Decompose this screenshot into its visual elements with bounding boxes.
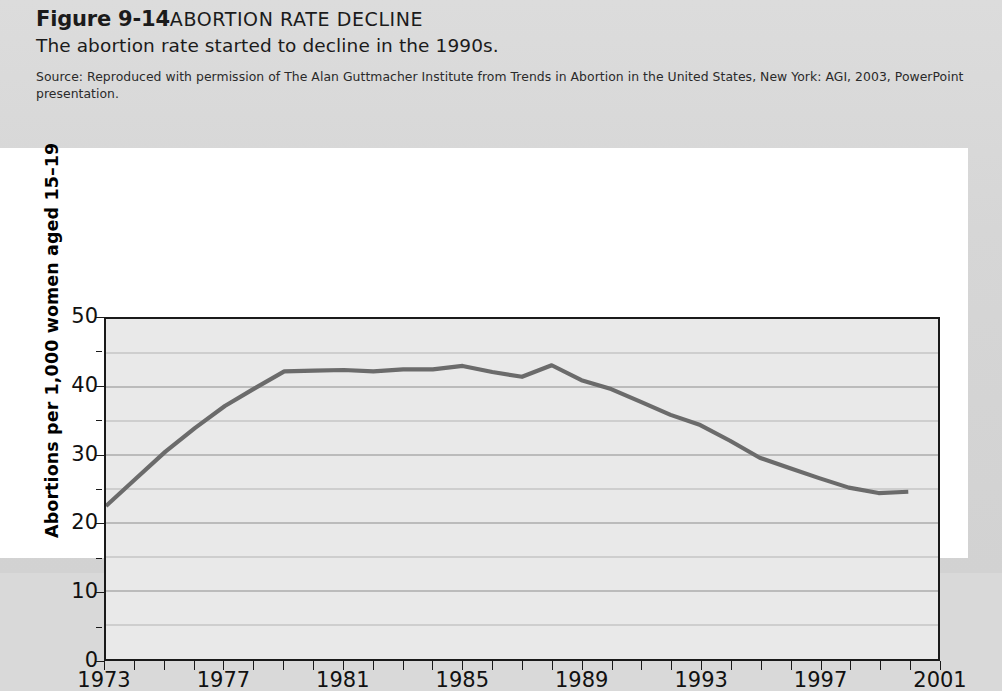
y-axis-tick-mark [96, 489, 102, 490]
figure-number-label: Figure 9-14 [36, 7, 170, 31]
x-axis-tick-mark [134, 661, 135, 670]
x-axis-tick-label: 2001 [913, 670, 966, 691]
figure-title: ABORTION RATE DECLINE [170, 8, 423, 30]
line-chart-svg [106, 319, 938, 659]
x-axis-tick-mark [403, 661, 404, 670]
x-axis-tick-mark [641, 661, 642, 670]
x-axis-tick-label: 1985 [436, 670, 489, 691]
x-axis-tick-mark [880, 661, 881, 670]
y-axis-tick-mark [96, 627, 102, 628]
x-axis-tick-mark [731, 661, 732, 670]
x-axis-tick-mark [761, 661, 762, 670]
x-axis-tick-mark [313, 661, 314, 670]
x-axis-tick-mark [671, 661, 672, 670]
x-axis-tick-mark [164, 661, 165, 670]
gridlines [106, 353, 938, 625]
x-axis-tick-mark [850, 661, 851, 670]
y-axis-tick-label: 10 [54, 581, 98, 602]
y-axis-tick-mark [96, 351, 102, 352]
x-axis-tick-mark [492, 661, 493, 670]
x-axis-tick-labels: 19731977198119851989199319972001 [104, 670, 940, 691]
figure-source-note: Source: Reproduced with permission of Th… [36, 69, 986, 102]
x-axis-tick-mark [432, 661, 433, 670]
x-axis-tick-mark [612, 661, 613, 670]
x-axis-tick-label: 1997 [794, 670, 847, 691]
x-axis-tick-label: 1989 [555, 670, 608, 691]
x-axis-tick-mark [283, 661, 284, 670]
plot-area [104, 317, 940, 661]
y-axis-tick-label: 20 [54, 512, 98, 533]
x-axis-tick-label: 1981 [316, 670, 369, 691]
data-line [106, 365, 908, 506]
y-axis-tick-labels: 01020304050 [46, 317, 98, 661]
x-axis-tick-mark [522, 661, 523, 670]
x-axis-tick-label: 1973 [77, 670, 130, 691]
y-axis-tick-mark [96, 558, 102, 559]
figure-title-line: Figure 9-14ABORTION RATE DECLINE [36, 6, 986, 32]
x-axis-tick-label: 1993 [674, 670, 727, 691]
x-axis-tick-mark [373, 661, 374, 670]
figure-subtitle: The abortion rate started to decline in … [36, 34, 986, 58]
figure-header: Figure 9-14ABORTION RATE DECLINE The abo… [36, 6, 986, 114]
y-axis-tick-mark [96, 420, 102, 421]
data-series-group [106, 365, 908, 506]
x-axis-tick-mark [552, 661, 553, 670]
x-axis-tick-mark [253, 661, 254, 670]
chart-panel: Abortions per 1,000 women aged 15–19 010… [0, 148, 968, 558]
x-axis-tick-label: 1977 [197, 670, 250, 691]
y-axis-tick-label: 50 [54, 306, 98, 327]
x-axis-tick-mark [791, 661, 792, 670]
x-axis-tick-mark [194, 661, 195, 670]
x-axis-tick-mark [910, 661, 911, 670]
y-axis-tick-label: 30 [54, 444, 98, 465]
y-axis-tick-label: 40 [54, 375, 98, 396]
